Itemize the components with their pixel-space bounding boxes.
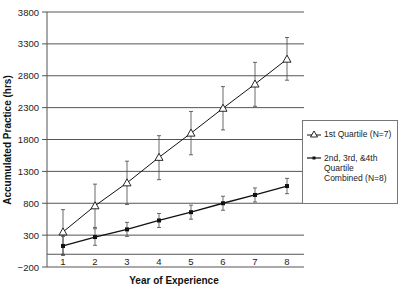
data-point-triangle <box>187 129 195 136</box>
y-axis-label: Accumulated Practice (hrs) <box>2 75 13 205</box>
chart: 380033002800230018001300800300−200123456… <box>0 0 404 289</box>
data-point-dot <box>221 201 225 205</box>
data-point-triangle <box>251 80 259 87</box>
x-tick-label: 6 <box>220 256 225 267</box>
data-point-triangle <box>283 55 291 62</box>
legend-item-first-quartile: 1st Quartile (N=7) <box>307 129 394 139</box>
y-tick-label: 300 <box>23 230 39 241</box>
y-tick-label: 2800 <box>18 70 39 81</box>
y-tick-label: 800 <box>23 198 39 209</box>
y-tick-label: −200 <box>18 262 39 273</box>
data-point-dot <box>285 184 289 188</box>
data-point-triangle <box>123 179 131 186</box>
data-point-dot <box>93 235 97 239</box>
y-tick-label: 1800 <box>18 134 39 145</box>
filled-circle-icon <box>307 153 321 163</box>
data-point-dot <box>253 193 257 197</box>
data-point-dot <box>157 218 161 222</box>
x-tick-label: 1 <box>60 256 65 267</box>
y-tick-label: 1300 <box>18 166 39 177</box>
x-tick-label: 5 <box>188 256 193 267</box>
y-tick-label: 3300 <box>18 38 39 49</box>
x-tick-label: 3 <box>124 256 129 267</box>
data-point-triangle <box>155 153 163 160</box>
data-point-dot <box>189 210 193 214</box>
legend-label: 1st Quartile (N=7) <box>324 129 394 139</box>
x-tick-label: 8 <box>284 256 289 267</box>
legend-label: 2nd, 3rd, &4th Quartile Combined (N=8) <box>324 153 394 183</box>
x-axis-label: Year of Experience <box>129 275 219 286</box>
y-tick-label: 2300 <box>18 102 39 113</box>
x-tick-label: 4 <box>156 256 161 267</box>
legend-item-combined-quartiles: 2nd, 3rd, &4th Quartile Combined (N=8) <box>307 153 394 183</box>
y-tick-label: 3800 <box>18 7 39 18</box>
open-triangle-icon <box>307 129 321 139</box>
data-point-triangle <box>59 228 67 235</box>
x-tick-label: 7 <box>252 256 257 267</box>
data-point-dot <box>61 244 65 248</box>
x-tick-label: 2 <box>92 256 97 267</box>
data-point-dot <box>125 227 129 231</box>
legend: 1st Quartile (N=7) 2nd, 3rd, &4th Quarti… <box>302 120 398 204</box>
